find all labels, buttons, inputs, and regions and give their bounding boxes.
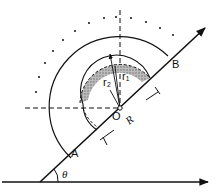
diagram: A B O R r₂ r₁ θ (0, 0, 220, 194)
hatched-region (80, 64, 150, 103)
label-R: R (122, 113, 136, 127)
dimension-tick-left (100, 130, 114, 140)
label-r2: r₂ (103, 76, 111, 88)
label-A: A (71, 147, 79, 159)
dimension-tick-left-end (103, 137, 107, 145)
label-B: B (172, 58, 179, 70)
label-theta: θ (62, 168, 68, 180)
label-O: O (112, 110, 121, 122)
theta-arc (54, 169, 58, 182)
diagram-svg: A B O R r₂ r₁ θ (0, 0, 220, 194)
label-r1: r₁ (122, 70, 130, 82)
inclined-line (40, 28, 205, 182)
dimension-tick-right (146, 92, 158, 100)
